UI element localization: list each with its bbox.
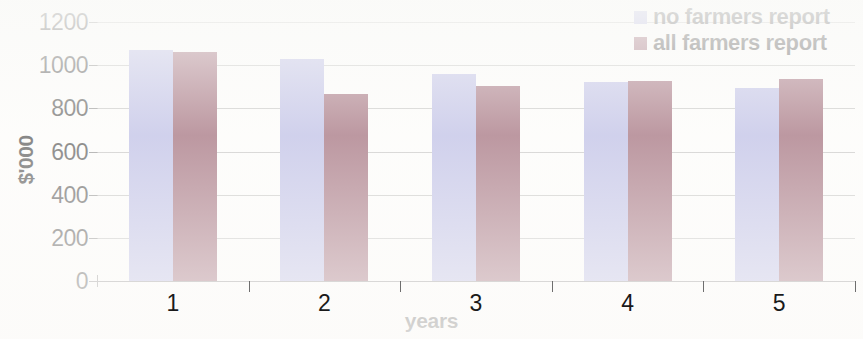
y-axis-line <box>97 275 98 287</box>
x-axis-tick-mark <box>703 281 704 292</box>
legend-item: all farmers report <box>634 30 863 56</box>
x-axis-tick-label: 5 <box>734 292 824 315</box>
y-axis-tick-label: 200 <box>6 227 88 250</box>
legend-item-label: all farmers report <box>653 32 827 54</box>
y-axis-tick-label: 0 <box>6 270 88 293</box>
x-axis-tick-label: 4 <box>583 292 673 315</box>
bar <box>173 52 217 281</box>
x-axis-tick-label: 2 <box>279 292 369 315</box>
x-axis-tick-mark <box>552 281 553 292</box>
y-axis-tick-label: 1000 <box>6 54 88 77</box>
bar-chart: 120010008006004002000 $'000 years no far… <box>0 0 863 339</box>
legend-swatch-maroon-icon <box>634 37 647 50</box>
legend-item: no farmers report <box>634 4 863 30</box>
bar <box>280 59 324 281</box>
chart-legend: no farmers reportall farmers report <box>634 4 863 56</box>
y-axis-title: $'000 <box>14 120 38 200</box>
bar <box>628 81 672 281</box>
legend-swatch-blue-icon <box>634 11 647 24</box>
x-axis-tick-mark <box>400 281 401 292</box>
bar <box>476 86 520 281</box>
bar <box>129 50 173 281</box>
x-axis-tick-mark <box>855 281 856 292</box>
bar <box>779 79 823 281</box>
x-axis-tick-label: 1 <box>128 292 218 315</box>
x-axis-line <box>97 281 855 282</box>
y-axis-tick-label: 800 <box>6 97 88 120</box>
plot-area <box>97 22 855 281</box>
bar <box>584 82 628 281</box>
legend-item-label: no farmers report <box>653 6 830 28</box>
bar <box>324 94 368 281</box>
bar <box>432 74 476 281</box>
x-axis-tick-label: 3 <box>431 292 521 315</box>
bar <box>735 88 779 281</box>
y-axis-tick-label: 1200 <box>6 11 88 34</box>
x-axis-tick-mark <box>249 281 250 292</box>
